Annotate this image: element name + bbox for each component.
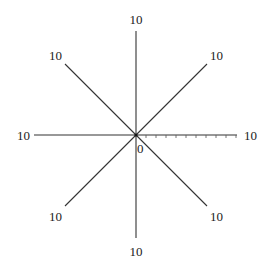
axis-top-right (136, 64, 207, 135)
label-left: 10 (17, 128, 30, 143)
axis-bottom-right (136, 135, 207, 206)
label-top-left: 10 (49, 48, 62, 63)
axis-top-left (65, 64, 136, 135)
origin-point (134, 133, 137, 136)
label-bottom-right: 10 (210, 209, 223, 224)
origin-label: 0 (137, 141, 144, 156)
radar-axes-diagram: 10 10 10 10 10 10 10 10 0 (0, 0, 272, 271)
label-bottom-left: 10 (49, 209, 62, 224)
axis-bottom-left (65, 135, 136, 206)
label-bottom: 10 (130, 244, 143, 259)
label-top-right: 10 (210, 48, 223, 63)
label-right: 10 (244, 128, 257, 143)
label-top: 10 (130, 12, 143, 27)
